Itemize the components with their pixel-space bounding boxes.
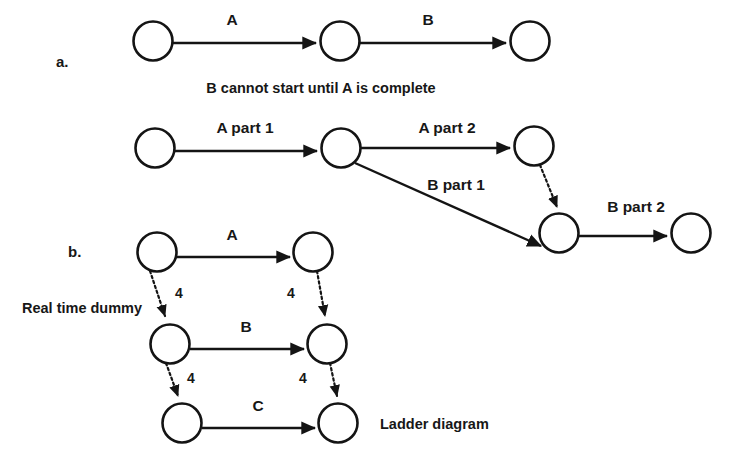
node-a2 (321, 22, 360, 61)
edge-label-b-top: B (422, 11, 433, 28)
network-diagram: a. A B B cannot start until A is complet… (0, 0, 733, 467)
node-l-top-right (294, 233, 333, 272)
dummy-edge-m3-m4 (540, 165, 557, 207)
node-a3 (511, 22, 550, 61)
node-l-top-left (138, 233, 177, 272)
edge-label-ladder-b: B (240, 318, 251, 335)
caption-top-row: B cannot start until A is complete (206, 80, 435, 96)
edge-label-b-part-1: B part 1 (427, 176, 485, 193)
dummy-edge-top-right (317, 271, 325, 316)
real-time-dummy-label: Real time dummy (22, 300, 142, 316)
dummy-edge-top-left (150, 271, 165, 316)
dummy-label-top-right: 4 (287, 285, 295, 301)
node-l-mid-left (151, 325, 190, 364)
section-split-group: A part 1 A part 2 B part 1 B part 2 (136, 119, 711, 253)
node-m3 (515, 127, 554, 166)
edge-label-a-part-1: A part 1 (216, 119, 274, 136)
node-l-bottom-left (163, 404, 202, 443)
dummy-label-bottom-right: 4 (299, 370, 307, 386)
node-m2 (322, 129, 361, 168)
dummy-label-top-left: 4 (175, 285, 183, 301)
edge-label-ladder-c: C (252, 397, 263, 414)
edge-label-b-part-2: B part 2 (607, 198, 665, 215)
node-m5 (672, 214, 711, 253)
section-a-group: a. A B B cannot start until A is complet… (56, 11, 550, 96)
dummy-edge-bottom-right (330, 363, 337, 396)
ladder-diagram-label: Ladder diagram (380, 416, 489, 432)
edge-label-a-top: A (226, 11, 237, 28)
node-m1 (136, 129, 175, 168)
node-a1 (134, 22, 173, 61)
section-b-group: b. A B C 4 4 4 4 Real time dummy Ladder … (22, 226, 489, 443)
dummy-label-bottom-left: 4 (187, 370, 195, 386)
dummy-edge-bottom-left (166, 363, 178, 396)
section-marker-b: b. (68, 243, 81, 260)
edge-label-ladder-a: A (226, 226, 237, 243)
node-l-mid-right (308, 325, 347, 364)
node-l-bottom-right (319, 404, 358, 443)
section-marker-a: a. (56, 53, 69, 70)
figure-canvas: a. A B B cannot start until A is complet… (0, 0, 733, 467)
node-m4 (540, 214, 579, 253)
edge-label-a-part-2: A part 2 (418, 119, 475, 136)
